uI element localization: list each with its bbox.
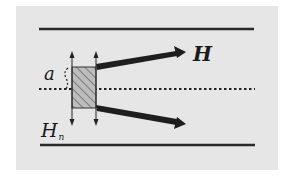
diagram-canvas	[0, 0, 303, 179]
normal-field-label: Hn	[41, 119, 64, 142]
lower-field-arrow-icon	[96, 105, 186, 129]
field-label-h: H	[193, 42, 212, 66]
upper-field-arrow-icon	[96, 46, 186, 70]
height-brace-icon	[65, 68, 68, 89]
normal-field-label-base: H	[41, 119, 58, 141]
height-label-a: a	[44, 63, 55, 84]
hatched-control-region	[72, 67, 96, 108]
normal-field-label-sub: n	[59, 132, 65, 142]
